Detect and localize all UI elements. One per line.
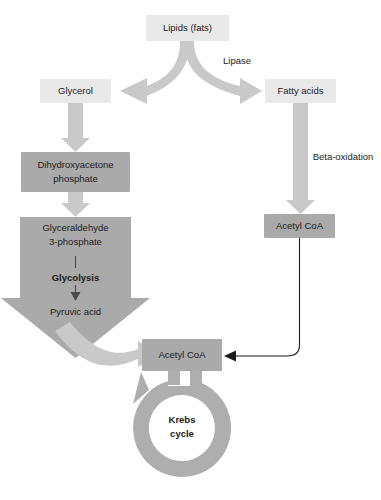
node-acetyl-coa-right: Acetyl CoA bbox=[264, 214, 335, 238]
lipids-label: Lipids (fats) bbox=[163, 22, 212, 33]
node-glycerol: Glycerol bbox=[40, 79, 111, 103]
acetyl-coa-center-label: Acetyl CoA bbox=[159, 349, 207, 360]
fatty-acids-label: Fatty acids bbox=[278, 85, 324, 96]
glycolysis-label: Glycolysis bbox=[52, 272, 100, 283]
dhap-label-line2: phosphate bbox=[53, 173, 97, 184]
node-lipids-fats: Lipids (fats) bbox=[146, 15, 229, 41]
glycerol-label: Glycerol bbox=[58, 85, 93, 96]
g3p-label-line1: Glyceraldehyde bbox=[42, 222, 108, 233]
lipase-right-branch bbox=[184, 41, 262, 104]
acetyl-coa-right-label: Acetyl CoA bbox=[276, 220, 324, 231]
krebs-label-line2: cycle bbox=[170, 428, 194, 439]
g3p-label-line2: 3-phosphate bbox=[49, 236, 102, 247]
node-acetyl-coa-center: Acetyl CoA bbox=[142, 339, 222, 371]
lipase-left-branch bbox=[120, 41, 190, 104]
pyruvic-acid-label: Pyruvic acid bbox=[50, 306, 101, 317]
dhap-label-line1: Dihydroxyacetone bbox=[37, 159, 113, 170]
lipid-metabolism-diagram: Lipids (fats) Lipase Glycerol Fatty acid… bbox=[0, 0, 381, 500]
lipase-label: Lipase bbox=[223, 55, 251, 66]
node-dihydroxyacetone-phosphate: Dihydroxyacetone phosphate bbox=[21, 152, 130, 192]
glycerol-to-dhap-arrow bbox=[61, 103, 90, 152]
node-glyceraldehyde-3-phosphate: Glyceraldehyde 3-phosphate bbox=[21, 217, 130, 253]
acetyl-coa-connector-line bbox=[236, 238, 300, 356]
diagram-canvas: Lipids (fats) Lipase Glycerol Fatty acid… bbox=[0, 0, 381, 500]
krebs-cycle-ring: Krebs cycle bbox=[133, 362, 231, 477]
fatty-acids-to-acetyl-coa-arrow bbox=[286, 103, 315, 214]
acetyl-coa-connector-arrowhead bbox=[224, 351, 236, 362]
krebs-label-line1: Krebs bbox=[169, 414, 196, 425]
dhap-to-g3p-arrow bbox=[61, 192, 90, 217]
beta-oxidation-label: Beta-oxidation bbox=[313, 151, 374, 162]
lipase-split-arrow bbox=[120, 41, 262, 104]
node-fatty-acids: Fatty acids bbox=[265, 79, 336, 103]
